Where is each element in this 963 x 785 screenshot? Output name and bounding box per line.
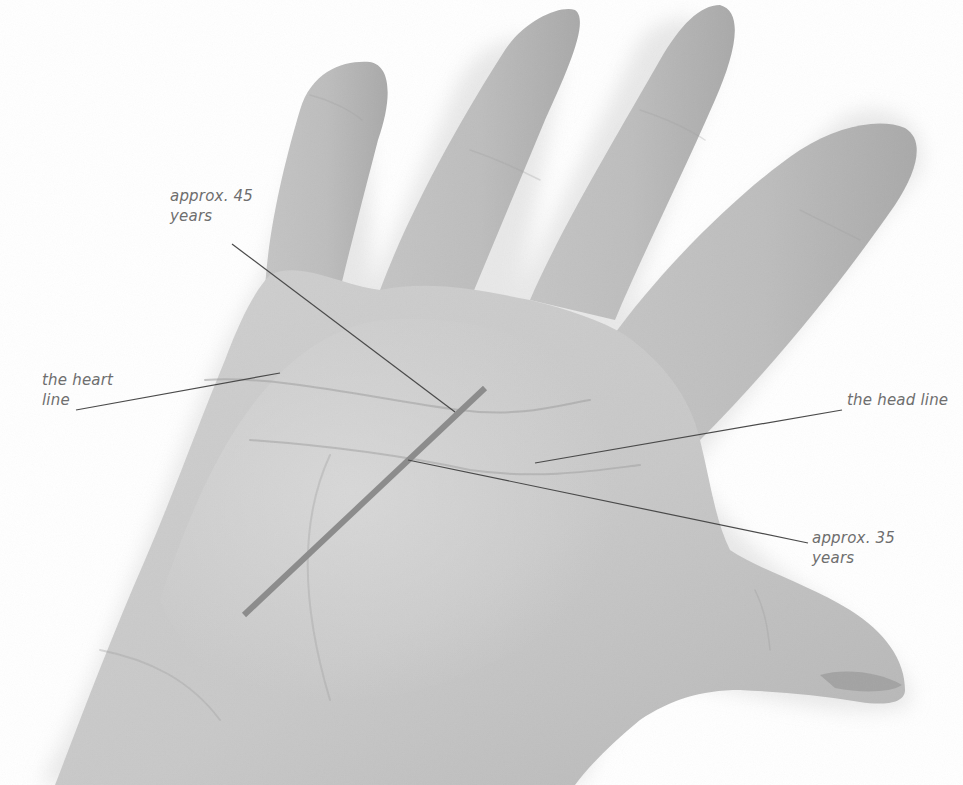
label-line: years (170, 206, 253, 226)
label-line: line (42, 390, 113, 410)
palmistry-figure: approx. 45 years the heart line the head… (0, 0, 963, 785)
label-line: the head line (847, 390, 948, 410)
label-head-line: the head line (847, 390, 948, 410)
label-line: years (812, 548, 895, 568)
label-approx-45-years: approx. 45 years (170, 186, 253, 226)
label-line: approx. 45 (170, 186, 253, 206)
label-line: the heart (42, 370, 113, 390)
hand-illustration (0, 0, 963, 785)
label-heart-line: the heart line (42, 370, 113, 410)
label-line: approx. 35 (812, 528, 895, 548)
label-approx-35-years: approx. 35 years (812, 528, 895, 568)
